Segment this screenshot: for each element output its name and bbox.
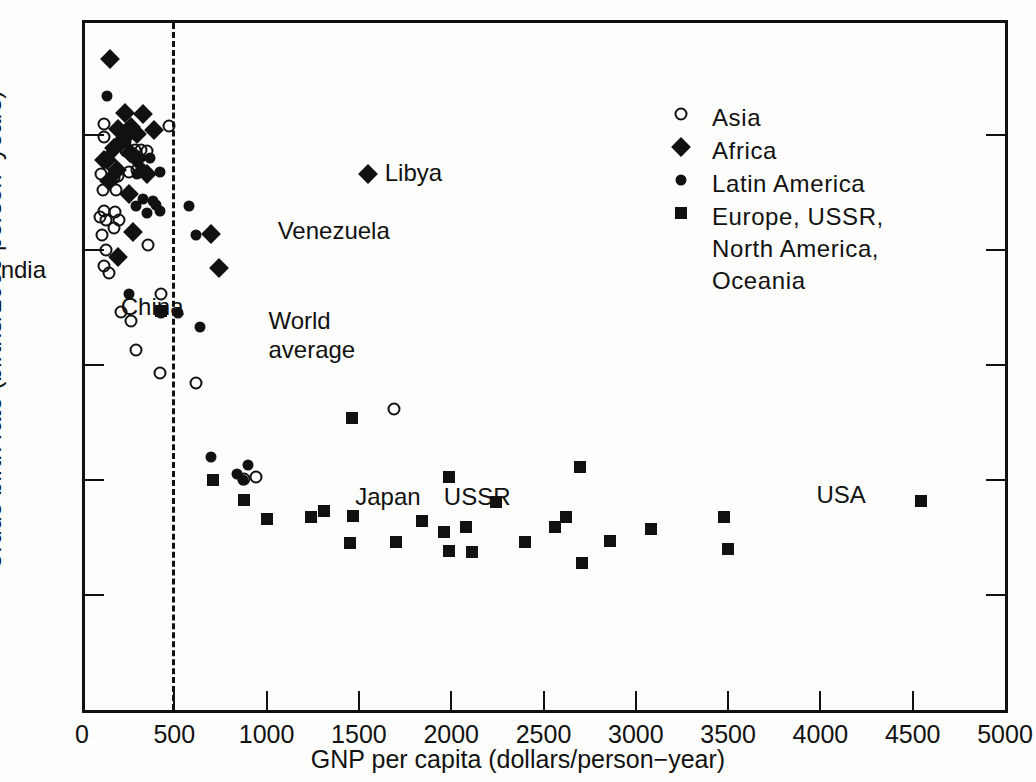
marker-asia [142, 239, 155, 252]
marker-europe-ussr-na-oceania [466, 546, 478, 558]
marker-latin-america-icon [672, 168, 712, 192]
chart-page: 0102030405060 05001000150020002500300035… [0, 0, 1036, 782]
y-axis-title: Crude birth rate (births/1000 person−yea… [0, 51, 7, 611]
marker-latin-america [191, 230, 202, 241]
marker-latin-america [243, 460, 254, 471]
y-tick-10 [85, 594, 104, 596]
marker-europe-ussr-na-oceania [460, 521, 472, 533]
axis-frame-left [82, 20, 85, 713]
y-tick-30 [85, 364, 104, 366]
marker-europe-ussr-na-oceania [560, 511, 572, 523]
marker-asia [162, 119, 175, 132]
marker-africa [144, 120, 164, 140]
legend-label: Latin America [712, 168, 865, 200]
marker-europe-ussr-na-oceania [718, 511, 730, 523]
marker-latin-america [132, 169, 143, 180]
marker-europe-ussr-na-oceania [346, 412, 358, 424]
legend-label: Asia [712, 102, 761, 134]
annotation-ussr: USSR [444, 482, 511, 511]
marker-europe-ussr-na-oceania [604, 535, 616, 547]
marker-europe-ussr-na-oceania [416, 515, 428, 527]
marker-asia [153, 367, 166, 380]
marker-asia [108, 222, 121, 235]
annotation-japan: Japan [355, 482, 420, 511]
annotation-usa: USA [816, 480, 865, 509]
marker-europe-ussr-na-oceania [390, 536, 402, 548]
marker-europe-ussr-na-oceania [238, 494, 250, 506]
marker-europe-ussr-na-oceania [722, 543, 734, 555]
marker-europe-ussr-na-oceania [574, 461, 586, 473]
marker-latin-america [206, 452, 217, 463]
marker-asia [102, 267, 115, 280]
marker-europe-ussr-na-oceania [344, 537, 356, 549]
y-tick-20 [85, 479, 104, 481]
marker-africa [209, 258, 229, 278]
marker-africa [123, 222, 143, 242]
x-tick-3500 [727, 691, 729, 710]
marker-asia [387, 402, 400, 415]
marker-asia [249, 470, 262, 483]
marker-europe-ussr-na-oceania [443, 545, 455, 557]
marker-europe-ussr-na-oceania [261, 513, 273, 525]
legend: AsiaAfricaLatin AmericaEurope, USSR, Nor… [672, 102, 884, 297]
y-tick-right-20 [986, 479, 1005, 481]
x-tick-1500 [358, 691, 360, 710]
marker-asia-icon [672, 102, 712, 126]
legend-label: Europe, USSR, North America, Oceania [712, 201, 884, 297]
marker-latin-america [141, 208, 152, 219]
marker-europe-ussr-na-oceania [207, 474, 219, 486]
axis-frame-right [1005, 20, 1008, 713]
marker-latin-america [126, 150, 137, 161]
annotation-world: World average [268, 306, 355, 364]
x-tick-4500 [912, 691, 914, 710]
marker-europe-ussr-na-oceania [915, 495, 927, 507]
legend-item-europe[interactable]: Europe, USSR, North America, Oceania [672, 201, 884, 297]
axis-frame-bottom [82, 710, 1008, 713]
annotation-china: China [121, 292, 184, 321]
x-tick-2500 [543, 691, 545, 710]
x-axis-title: GNP per capita (dollars/person−year) [0, 745, 1036, 774]
x-tick-500 [173, 691, 175, 710]
marker-latin-america [121, 136, 132, 147]
marker-africa [100, 49, 120, 69]
marker-europe-ussr-na-oceania [305, 511, 317, 523]
marker-europe-ussr-na-oceania-icon [672, 201, 712, 225]
marker-europe-ussr-na-oceania [549, 521, 561, 533]
x-tick-2000 [450, 691, 452, 710]
marker-africa-icon [672, 135, 712, 159]
marker-asia [129, 344, 142, 357]
legend-item-africa[interactable]: Africa [672, 135, 884, 168]
marker-latin-america [151, 200, 162, 211]
legend-item-latin-america[interactable]: Latin America [672, 168, 884, 201]
marker-africa [201, 224, 221, 244]
marker-africa [358, 164, 378, 184]
marker-europe-ussr-na-oceania [347, 510, 359, 522]
marker-latin-america [130, 201, 141, 212]
marker-europe-ussr-na-oceania [645, 523, 657, 535]
x-tick-3000 [635, 691, 637, 710]
y-tick-right-40 [986, 249, 1005, 251]
annotation-libya: Libya [385, 158, 442, 187]
marker-asia [95, 229, 108, 242]
x-tick-4000 [819, 691, 821, 710]
marker-europe-ussr-na-oceania [318, 505, 330, 517]
axis-frame-top [82, 20, 1008, 23]
marker-latin-america [232, 469, 243, 480]
y-tick-right-30 [986, 364, 1005, 366]
marker-latin-america [145, 153, 156, 164]
annotation-venezuela: Venezuela [278, 216, 390, 245]
y-tick-right-10 [986, 594, 1005, 596]
y-tick-right-50 [986, 134, 1005, 136]
x-tick-1000 [266, 691, 268, 710]
marker-latin-america [183, 201, 194, 212]
marker-europe-ussr-na-oceania [438, 526, 450, 538]
marker-europe-ussr-na-oceania [443, 471, 455, 483]
marker-latin-america [154, 166, 165, 177]
annotation-india: India [0, 255, 46, 284]
marker-europe-ussr-na-oceania [519, 536, 531, 548]
legend-item-asia[interactable]: Asia [672, 102, 884, 135]
legend-label: Africa [712, 135, 777, 167]
marker-latin-america [195, 322, 206, 333]
marker-europe-ussr-na-oceania [576, 557, 588, 569]
marker-latin-america [102, 90, 113, 101]
